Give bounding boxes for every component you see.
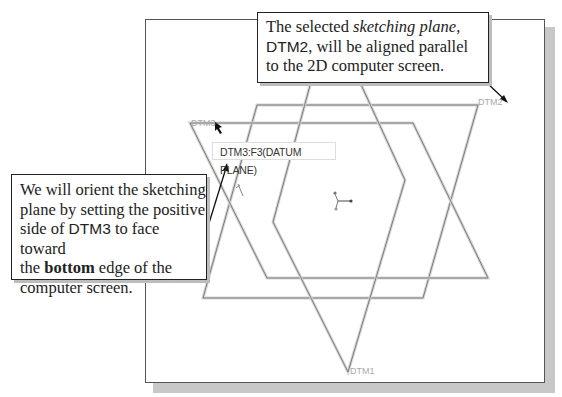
datum-plane-tooltip: DTM3:F3(DATUM PLANE) [212, 142, 336, 160]
dtm3-normal-arrow-icon [236, 184, 243, 196]
coordinate-triad-icon [333, 191, 352, 210]
callout-line: to the 2D computer screen. [266, 56, 488, 76]
callout-line: side of DTM3 to face toward [20, 219, 206, 258]
callout-sketching-plane: The selected sketching plane, DTM2, will… [257, 12, 489, 83]
callout-line: computer screen. [20, 278, 206, 298]
callout-line: The selected sketching plane, [266, 17, 488, 37]
callout-line: the bottom edge of the [20, 258, 206, 278]
callout-line: plane by setting the positive [20, 200, 206, 220]
label-dtm1: DTM1 [350, 366, 375, 376]
callout-line: DTM2, will be aligned parallel [266, 37, 488, 57]
label-dtm3: DTM3 [191, 118, 216, 128]
callout-orientation: We will orient the sketching plane by se… [11, 174, 207, 280]
label-dtm2: DTM2 [478, 97, 503, 107]
callout-line: We will orient the sketching [20, 180, 206, 200]
